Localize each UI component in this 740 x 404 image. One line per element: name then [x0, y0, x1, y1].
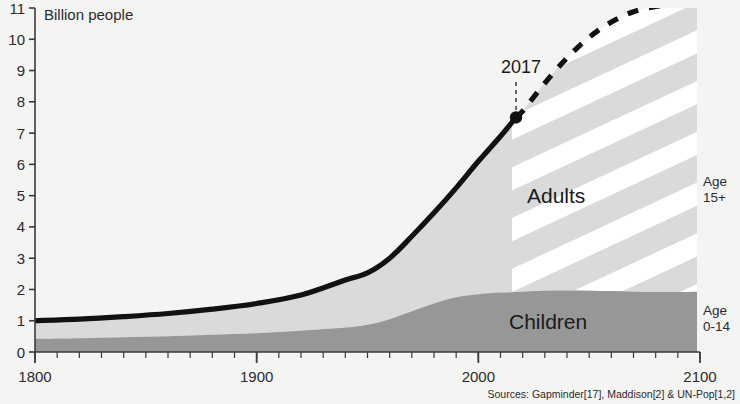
- y-tick-label: 3: [17, 250, 25, 267]
- annotation-point: [510, 111, 522, 123]
- x-tick-label: 2000: [462, 368, 495, 385]
- y-tick-label: 11: [9, 0, 25, 17]
- y-tick-label: 2: [17, 281, 25, 298]
- adults-band-label: Adults: [527, 184, 585, 207]
- y-tick-label: 4: [17, 218, 25, 235]
- y-tick-label: 1: [17, 312, 25, 329]
- y-tick-label: 5: [17, 187, 25, 204]
- children-side-label: Age 0-14: [703, 303, 731, 334]
- y-tick-label: 10: [8, 31, 25, 48]
- x-tick-label: 1900: [240, 368, 273, 385]
- x-tick-label: 1800: [18, 368, 51, 385]
- y-axis-title: Billion people: [44, 6, 133, 23]
- adults-side-label-line2: 15+: [703, 190, 726, 205]
- population-chart: 01234567891011 1800190020002100 Billion …: [0, 0, 740, 404]
- source-note: Sources: Gapminder[17], Maddison[2] & UN…: [488, 388, 736, 400]
- children-side-label-line1: Age: [703, 303, 727, 318]
- annotation-year-label: 2017: [501, 57, 541, 77]
- x-tick-label: 2100: [683, 368, 716, 385]
- children-side-label-line2: 0-14: [703, 319, 731, 334]
- children-band-label: Children: [509, 310, 587, 333]
- y-tick-label: 0: [17, 344, 25, 361]
- y-tick-label: 6: [17, 156, 25, 173]
- adults-side-label: Age 15+: [703, 174, 727, 205]
- y-tick-label: 9: [17, 62, 25, 79]
- y-tick-label: 7: [17, 125, 25, 142]
- adults-side-label-line1: Age: [703, 174, 727, 189]
- y-tick-label: 8: [17, 93, 25, 110]
